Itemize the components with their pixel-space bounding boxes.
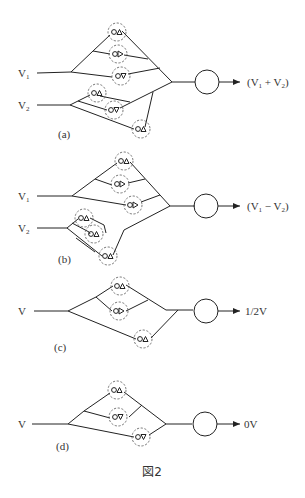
figure-caption: 図2 — [142, 465, 162, 479]
neuron-cell-body — [194, 194, 218, 218]
wire — [141, 195, 160, 202]
wire — [71, 72, 112, 77]
neuron-cell-body — [195, 70, 219, 94]
wire — [120, 82, 172, 108]
wire — [72, 163, 117, 196]
synapse-5 — [85, 225, 103, 243]
synapse-3 — [132, 428, 150, 446]
panel-label-d: (d) — [56, 440, 69, 453]
synapse-5 — [105, 101, 123, 119]
input-label-v: V — [18, 418, 26, 430]
panel-label-c: (c) — [54, 341, 67, 354]
synapse-4 — [88, 84, 106, 102]
synapse-1 — [115, 152, 133, 170]
synapse-1 — [111, 277, 129, 295]
wire — [93, 51, 110, 54]
wire — [95, 179, 112, 185]
wire — [124, 206, 170, 230]
wire — [68, 424, 134, 437]
input-label-v2: V2 — [18, 222, 30, 236]
wire — [151, 310, 178, 338]
wire — [104, 225, 106, 233]
figure-2-diagram: V1 V2 (V1 + V2) (a) V1 V2 — [0, 0, 305, 498]
input-label-v1: V1 — [18, 67, 30, 81]
wire — [84, 411, 110, 418]
panel-b: V1 V2 (V1 − V2) (b) — [18, 152, 289, 266]
input-wire-v1 — [37, 72, 71, 73]
wire — [128, 68, 160, 74]
output-label: 0V — [244, 418, 258, 430]
panel-d: V 0V (d) — [18, 381, 258, 453]
synapse-3 — [134, 330, 152, 348]
neuron-cell-body — [193, 412, 217, 436]
wire — [71, 35, 110, 72]
synapse-3 — [112, 67, 130, 85]
synapse-6 — [132, 120, 150, 138]
synapse-1 — [108, 381, 126, 399]
wire — [68, 286, 113, 311]
wire — [129, 405, 142, 417]
synapse-3 — [124, 196, 142, 214]
wire — [76, 238, 95, 252]
wire — [126, 300, 148, 311]
wire — [124, 392, 166, 424]
wire — [130, 162, 170, 206]
wire — [90, 218, 104, 225]
wire — [68, 393, 110, 424]
panel-label-b: (b) — [58, 253, 71, 266]
synapse-2 — [109, 45, 127, 63]
output-label: (V1 − V2) — [247, 200, 289, 214]
input-label-v2: V2 — [18, 99, 30, 113]
input-label-v: V — [18, 305, 26, 317]
wire — [96, 297, 112, 311]
output-label: (V1 + V2) — [247, 76, 289, 90]
wire — [126, 285, 166, 310]
wire — [128, 179, 145, 183]
input-label-v1: V1 — [18, 190, 30, 204]
panel-a: V1 V2 (V1 + V2) (a) — [18, 23, 289, 141]
synapse-2 — [111, 175, 129, 193]
wire — [149, 424, 166, 435]
panel-c: V 1/2V (c) — [18, 277, 267, 354]
synapse-2 — [110, 302, 128, 320]
wire — [78, 101, 107, 110]
wire — [124, 55, 148, 59]
synapse-2 — [109, 408, 127, 426]
output-label: 1/2V — [245, 305, 267, 317]
neuron-cell-body — [194, 299, 218, 323]
wire — [113, 230, 124, 255]
panel-label-a: (a) — [58, 128, 71, 141]
wire — [72, 196, 126, 205]
wire — [68, 311, 136, 339]
